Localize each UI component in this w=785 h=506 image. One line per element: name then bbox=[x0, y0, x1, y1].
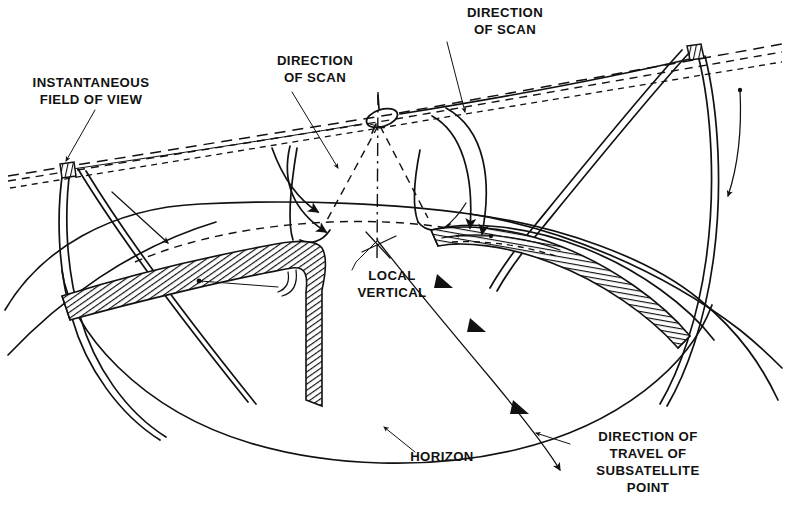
label-direction-of-scan-right: DIRECTION OF SCAN bbox=[467, 5, 543, 37]
right-instantaneous-field-of-view bbox=[687, 44, 704, 60]
left-band-inner-hook-b bbox=[278, 272, 289, 292]
right-swath-tick-dot bbox=[489, 234, 493, 238]
leader-ifov bbox=[66, 110, 95, 161]
left-band-inner-hook bbox=[282, 270, 296, 296]
orbit-motion-arrow-right bbox=[728, 90, 741, 196]
scan-right-label-line2: OF SCAN bbox=[474, 22, 536, 37]
ground-track-arrowhead-3 bbox=[510, 400, 529, 414]
left-cone-center-wall-a bbox=[290, 148, 297, 240]
left-swath-tick-dot bbox=[197, 279, 202, 284]
label-local-vertical: LOCAL VERTICAL bbox=[357, 268, 426, 300]
right-cone-inner-wall-b bbox=[497, 53, 689, 291]
travel-label-line3: SUBSATELLITE bbox=[596, 463, 699, 478]
leader-scan-right bbox=[447, 42, 465, 112]
diagram-canvas: INSTANTANEOUS FIELD OF VIEW DIRECTION OF… bbox=[0, 0, 785, 506]
ifov-label-line2: FIELD OF VIEW bbox=[40, 92, 143, 107]
ground-track-arrowhead-2 bbox=[467, 318, 486, 332]
right-cone-center-wall-a bbox=[414, 150, 420, 222]
subsatellite-point-cross-a bbox=[362, 236, 396, 252]
leader-local-vertical bbox=[352, 240, 378, 270]
label-horizon: HORIZON bbox=[410, 449, 474, 464]
right-ifov-box bbox=[687, 44, 704, 60]
cone-edge-right bbox=[380, 126, 428, 218]
label-instantaneous-field-of-view: INSTANTANEOUS FIELD OF VIEW bbox=[33, 75, 150, 107]
left-swath-lead-arrow bbox=[112, 192, 168, 243]
cone-edge-left bbox=[326, 126, 378, 222]
horizon-label: HORIZON bbox=[410, 449, 474, 464]
label-direction-of-scan-left: DIRECTION OF SCAN bbox=[277, 53, 353, 85]
satellite-scan-geometry-diagram: INSTANTANEOUS FIELD OF VIEW DIRECTION OF… bbox=[0, 0, 785, 506]
subsatellite-point-cross-b bbox=[366, 232, 390, 258]
travel-label-line2: TRAVEL OF bbox=[609, 446, 686, 461]
ifov-label-line1: INSTANTANEOUS bbox=[33, 75, 150, 90]
scan-right-label-line1: DIRECTION bbox=[467, 5, 543, 20]
label-direction-of-travel-subsatellite-point: DIRECTION OF TRAVEL OF SUBSATELLITE POIN… bbox=[596, 429, 699, 495]
orbit-motion-arrow-dot bbox=[738, 88, 742, 92]
scan-left-label-line1: DIRECTION bbox=[277, 53, 353, 68]
scan-plane-solid-left bbox=[66, 124, 362, 170]
left-ifov-box bbox=[60, 162, 76, 178]
scan-direction-arrows bbox=[112, 88, 742, 243]
left-instantaneous-field-of-view bbox=[60, 162, 76, 178]
right-cone-outer-wall-b bbox=[667, 56, 719, 406]
travel-label-line1: DIRECTION OF bbox=[598, 429, 697, 444]
scan-left-label-line2: OF SCAN bbox=[284, 70, 346, 85]
travel-label-line4: POINT bbox=[627, 480, 669, 495]
ground-track-arrowhead-1 bbox=[434, 274, 453, 288]
local-vertical-label-line1: LOCAL bbox=[368, 268, 415, 283]
local-vertical-label-line2: VERTICAL bbox=[357, 285, 426, 300]
